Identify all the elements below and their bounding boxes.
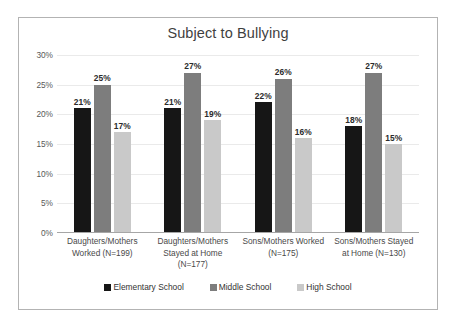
bar-value-label: 17% [114,122,131,130]
x-axis-line [57,232,419,233]
x-axis-category-label-line: at Home (N=130) [321,248,428,260]
chart-container: Subject to Bullying 30%25%20%15%10%5%0% … [18,17,438,310]
y-axis-tick-label: 30% [23,51,53,59]
bar-value-label: 27% [184,62,201,70]
legend-swatch-icon [297,284,304,291]
bar-value-label: 21% [74,98,91,106]
bar-group: 18%27%15% [329,55,420,233]
bar[interactable]: 21% [74,108,91,233]
legend-label: Middle School [219,283,272,291]
chart-title: Subject to Bullying [19,25,437,41]
bar[interactable]: 17% [114,132,131,233]
bar-value-label: 25% [94,74,111,82]
bar[interactable]: 22% [255,102,272,233]
bar-group: 21%27%19% [148,55,239,233]
legend-item[interactable]: High School [297,283,351,291]
bar-value-label: 19% [204,110,221,118]
legend-label: Elementary School [113,283,183,291]
x-axis-category-label-line: Sons/Mothers Stayed [321,236,428,248]
legend-item[interactable]: Middle School [210,283,272,291]
plot-area: 30%25%20%15%10%5%0% 21%25%17%21%27%19%22… [57,55,419,233]
legend-label: High School [306,283,351,291]
legend-swatch-icon [210,284,217,291]
bar[interactable]: 15% [385,144,402,233]
bar[interactable]: 27% [365,73,382,233]
bar[interactable]: 16% [295,138,312,233]
bar-value-label: 16% [295,128,312,136]
y-axis-tick-label: 5% [23,199,53,207]
bar[interactable]: 27% [184,73,201,233]
bar-value-label: 27% [365,62,382,70]
y-axis-tick-label: 20% [23,110,53,118]
bar[interactable]: 19% [204,120,221,233]
chart-legend: Elementary SchoolMiddle SchoolHigh Schoo… [19,283,437,291]
bar[interactable]: 18% [345,126,362,233]
bar[interactable]: 21% [164,108,181,233]
bar-group: 22%26%16% [238,55,329,233]
bar-value-label: 22% [255,92,272,100]
y-axis-tick-label: 10% [23,170,53,178]
x-axis-category-label-line: (N=177) [140,259,247,271]
bar[interactable]: 26% [275,79,292,233]
bar-group: 21%25%17% [57,55,148,233]
bar-value-label: 18% [345,116,362,124]
legend-swatch-icon [104,284,111,291]
y-axis-tick-label: 25% [23,81,53,89]
bar[interactable]: 25% [94,85,111,233]
y-axis-tick-label: 15% [23,140,53,148]
bar-value-label: 21% [164,98,181,106]
bar-value-label: 26% [275,68,292,76]
bar-value-label: 15% [385,134,402,142]
legend-item[interactable]: Elementary School [104,283,183,291]
x-axis-category-label: Sons/Mothers Stayedat Home (N=130) [321,236,428,259]
